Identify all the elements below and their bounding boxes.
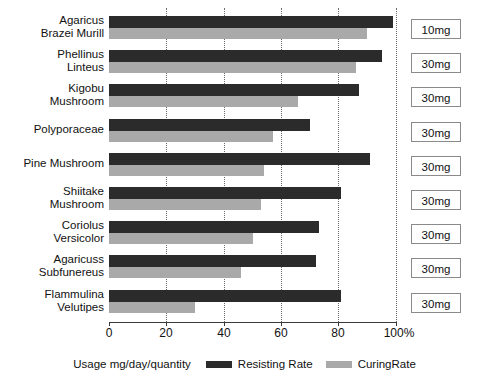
- category-label: Shiitake Mushroom: [0, 185, 104, 211]
- dosage-box: 30mg: [411, 224, 461, 244]
- legend-swatch-resisting-rate: [206, 361, 232, 368]
- xtick-label-60: 60: [251, 326, 311, 340]
- bar-curing-rate: [109, 302, 195, 313]
- bar-curing-rate: [109, 233, 253, 244]
- category-label: Phellinus Linteus: [0, 48, 104, 74]
- bar-resisting-rate: [109, 153, 370, 165]
- legend-usage-label: Usage mg/day/quantity: [73, 358, 191, 370]
- gridline-100: [396, 8, 397, 322]
- dosage-box: 30mg: [411, 156, 461, 176]
- dosage-box: 30mg: [411, 53, 461, 73]
- category-label: Pine Mushroom: [0, 157, 104, 170]
- category-label: Polyporaceae: [0, 123, 104, 136]
- category-label: Kigobu Mushroom: [0, 82, 104, 108]
- bar-resisting-rate: [109, 221, 319, 233]
- dosage-box: 10mg: [411, 19, 461, 39]
- dosage-box: 30mg: [411, 87, 461, 107]
- bar-resisting-rate: [109, 16, 393, 28]
- legend-label-resisting-rate: Resisting Rate: [238, 358, 313, 370]
- legend-swatch-curing-rate: [326, 361, 352, 368]
- bar-curing-rate: [109, 96, 298, 107]
- bar-curing-rate: [109, 62, 356, 73]
- plot-area: Agaricus Brazei MurillPhellinus LinteusK…: [109, 8, 396, 322]
- bar-curing-rate: [109, 28, 367, 39]
- legend-label-curing-rate: CuringRate: [358, 358, 416, 370]
- category-label: Flammulina Velutipes: [0, 288, 104, 314]
- bar-resisting-rate: [109, 84, 359, 96]
- bar-curing-rate: [109, 131, 273, 142]
- bar-curing-rate: [109, 267, 241, 278]
- chart-legend: Usage mg/day/quantity Resisting Rate Cur…: [0, 358, 489, 370]
- legend-item-curing-rate: CuringRate: [326, 358, 416, 370]
- bar-resisting-rate: [109, 119, 310, 131]
- xtick-label-80: 80: [308, 326, 368, 340]
- xtick-label-100: 100%: [369, 326, 429, 340]
- dosage-box: 30mg: [411, 190, 461, 210]
- xtick-label-40: 40: [194, 326, 254, 340]
- legend-item-resisting-rate: Resisting Rate: [206, 358, 313, 370]
- bar-resisting-rate: [109, 290, 341, 302]
- bar-curing-rate: [109, 165, 264, 176]
- category-label: Agaricuss Subfunereus: [0, 253, 104, 279]
- xtick-label-20: 20: [136, 326, 196, 340]
- mushroom-efficacy-bar-chart: Agaricus Brazei MurillPhellinus LinteusK…: [0, 0, 489, 383]
- x-axis-line: [109, 322, 397, 323]
- bar-resisting-rate: [109, 187, 341, 199]
- bar-curing-rate: [109, 199, 261, 210]
- bar-resisting-rate: [109, 50, 382, 62]
- category-label: Agaricus Brazei Murill: [0, 14, 104, 40]
- xtick-label-0: 0: [79, 326, 139, 340]
- dosage-box: 30mg: [411, 258, 461, 278]
- dosage-box: 30mg: [411, 293, 461, 313]
- dosage-box: 30mg: [411, 122, 461, 142]
- category-label: Coriolus Versicolor: [0, 219, 104, 245]
- bar-resisting-rate: [109, 255, 316, 267]
